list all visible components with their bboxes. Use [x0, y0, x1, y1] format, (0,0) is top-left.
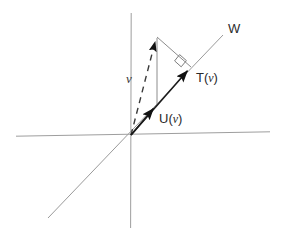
- diagram-canvas: [0, 0, 282, 240]
- right-angle-marker: [175, 55, 187, 67]
- y-axis: [131, 13, 132, 228]
- label-component-prefix: U(: [159, 111, 173, 126]
- label-projection-prefix: T(: [196, 70, 208, 85]
- label-projection-suffix: ): [214, 70, 218, 85]
- perpendicular-connector: [157, 37, 191, 67]
- label-component-uv: U(v): [159, 112, 182, 125]
- orthogonal-projection-diagram: W T(v) U(v) v: [0, 0, 282, 240]
- label-component-suffix: ): [178, 111, 182, 126]
- label-vector-v: v: [126, 72, 132, 85]
- subspace-line-w: [48, 35, 223, 218]
- x-axis: [16, 132, 270, 136]
- label-subspace-w: W: [228, 22, 240, 35]
- label-projection-tv: T(v): [196, 71, 218, 84]
